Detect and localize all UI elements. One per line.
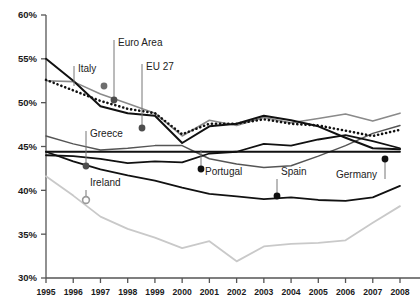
annotation-label-euro-area: Euro Area xyxy=(118,37,163,48)
annotation-label-eu-27: EU 27 xyxy=(146,61,174,72)
annotation-marker-portugal xyxy=(198,166,205,173)
x-axis-tick-label: 2007 xyxy=(363,287,382,297)
y-axis-tick-label: 60% xyxy=(18,9,38,20)
y-axis-tick-label: 50% xyxy=(18,97,38,108)
annotation-marker-spain xyxy=(274,193,281,200)
annotation-marker-germany xyxy=(382,156,389,163)
chart-canvas: 60%55%50%45%40%35%30% 199519961997199819… xyxy=(0,0,420,307)
annotation-label-italy: Italy xyxy=(78,63,96,74)
annotation-marker-ireland xyxy=(83,197,90,204)
y-axis-tick-label: 35% xyxy=(18,229,38,240)
x-axis-tick-label: 1995 xyxy=(36,287,55,297)
x-axis-tick-label: 2006 xyxy=(336,287,355,297)
x-axis-tick-label: 1996 xyxy=(64,287,83,297)
x-axis-tick-label: 1998 xyxy=(118,287,137,297)
annotation-marker-euro-area xyxy=(111,97,118,104)
annotation-label-germany: Germany xyxy=(336,169,377,180)
annotation-marker-eu-27 xyxy=(139,125,146,132)
x-axis-tick-label: 2001 xyxy=(200,287,219,297)
line-chart: 60%55%50%45%40%35%30% 199519961997199819… xyxy=(0,0,420,307)
x-axis-tick-label: 2005 xyxy=(309,287,328,297)
annotation-marker-greece xyxy=(83,163,90,170)
y-axis-tick-label: 40% xyxy=(18,185,38,196)
x-axis-tick-label: 2008 xyxy=(390,287,409,297)
annotation-label-greece: Greece xyxy=(90,128,123,139)
annotation-marker-italy xyxy=(101,83,108,90)
annotation-label-ireland: Ireland xyxy=(90,177,121,188)
x-axis-tick-label: 2000 xyxy=(173,287,192,297)
x-axis-tick-label: 2004 xyxy=(282,287,301,297)
x-axis-tick-label: 1999 xyxy=(145,287,164,297)
annotation-label-portugal: Portugal xyxy=(205,166,242,177)
x-axis-tick-label: 2003 xyxy=(254,287,273,297)
y-axis-tick-label: 55% xyxy=(18,53,38,64)
y-axis-tick-label: 45% xyxy=(18,141,38,152)
x-axis-tick-label: 2002 xyxy=(227,287,246,297)
annotation-label-spain: Spain xyxy=(281,166,307,177)
y-axis-tick-label: 30% xyxy=(18,272,38,283)
x-axis-tick-label: 1997 xyxy=(91,287,110,297)
